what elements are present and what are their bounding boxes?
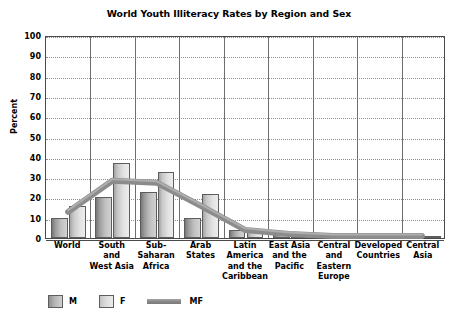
bar-f-8 <box>424 236 441 238</box>
bar-m-7 <box>362 236 379 238</box>
chart-title: World Youth Illiteracy Rates by Region a… <box>0 8 458 19</box>
x-tick-label-line: Central <box>391 241 455 251</box>
bar-f-6 <box>335 236 352 238</box>
category-separator <box>179 37 180 238</box>
y-tick-40: 40 <box>0 153 41 162</box>
x-tick-label-line: Europe <box>302 272 366 282</box>
bar-f-0 <box>69 206 86 238</box>
y-tick-100: 100 <box>0 32 41 41</box>
bar-m-2 <box>140 192 157 238</box>
gridline-70 <box>46 98 444 99</box>
legend-label-mf: MF <box>189 297 202 306</box>
bar-f-2 <box>158 172 175 238</box>
legend-swatch-f-icon <box>99 295 114 308</box>
bar-m-4 <box>229 230 246 238</box>
gridline-40 <box>46 159 444 160</box>
chart-legend: M F MF <box>48 292 225 310</box>
bar-m-5 <box>273 235 290 238</box>
x-tick-label-line: Africa <box>124 262 188 272</box>
legend-label-m: M <box>69 297 77 306</box>
bar-f-5 <box>291 234 308 238</box>
x-tick-label-line: Asia <box>391 251 455 261</box>
gridline-80 <box>46 78 444 79</box>
y-tick-60: 60 <box>0 113 41 122</box>
category-separator <box>402 37 403 238</box>
bar-m-1 <box>95 197 112 238</box>
legend-item-m: M <box>48 295 77 308</box>
category-separator <box>313 37 314 238</box>
legend-item-mf: MF <box>147 297 202 306</box>
bar-m-3 <box>184 218 201 238</box>
x-tick-label-8: CentralAsia <box>391 241 455 262</box>
category-separator <box>135 37 136 238</box>
bar-f-4 <box>247 230 264 238</box>
category-separator <box>90 37 91 238</box>
y-tick-30: 30 <box>0 174 41 183</box>
gridline-90 <box>46 57 444 58</box>
y-tick-50: 50 <box>0 133 41 142</box>
y-tick-70: 70 <box>0 92 41 101</box>
category-separator <box>357 37 358 238</box>
bar-m-6 <box>318 236 335 238</box>
legend-swatch-m-icon <box>48 295 63 308</box>
legend-item-f: F <box>99 295 125 308</box>
gridline-30 <box>46 179 444 180</box>
x-tick-label-line: Eastern <box>302 262 366 272</box>
legend-label-f: F <box>120 297 125 306</box>
chart-container: World Youth Illiteracy Rates by Region a… <box>0 0 458 317</box>
plot-area <box>45 36 445 239</box>
bar-f-7 <box>380 236 397 238</box>
category-separator <box>268 37 269 238</box>
y-tick-20: 20 <box>0 194 41 203</box>
y-tick-80: 80 <box>0 72 41 81</box>
gridline-60 <box>46 118 444 119</box>
y-tick-90: 90 <box>0 52 41 61</box>
bar-m-8 <box>406 236 423 238</box>
y-tick-10: 10 <box>0 214 41 223</box>
bar-m-0 <box>51 218 68 238</box>
gridline-50 <box>46 139 444 140</box>
gridline-100 <box>46 37 444 38</box>
category-separator <box>224 37 225 238</box>
bar-f-3 <box>202 194 219 238</box>
bar-f-1 <box>113 163 130 238</box>
x-tick-label-line: Caribbean <box>213 272 277 282</box>
legend-line-mf-icon <box>147 299 181 304</box>
